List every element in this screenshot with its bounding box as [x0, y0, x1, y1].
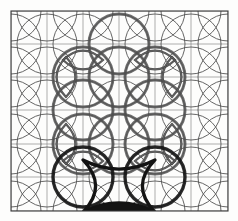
circle-lattice-svg	[0, 0, 238, 221]
figure-root	[0, 0, 238, 221]
